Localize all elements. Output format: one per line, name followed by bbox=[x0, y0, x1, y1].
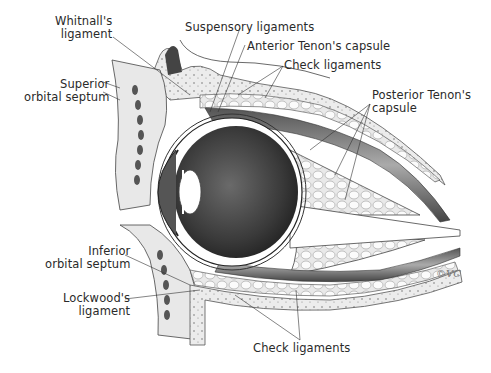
label-suspensory-ligaments: Suspensory ligaments bbox=[185, 21, 314, 34]
label-line: orbital septum bbox=[24, 91, 109, 104]
label-whitnalls-ligament: Whitnall's ligament bbox=[55, 15, 112, 41]
label-line: Anterior Tenon's capsule bbox=[247, 40, 390, 53]
label-line: ligament bbox=[55, 28, 112, 41]
artist-signature: ©VC bbox=[436, 268, 461, 279]
label-check-ligaments-bottom: Check ligaments bbox=[253, 342, 350, 355]
cornea bbox=[158, 150, 176, 236]
label-posterior-tenons-capsule: Posterior Tenon's capsule bbox=[372, 89, 471, 115]
label-line: orbital septum bbox=[45, 258, 130, 271]
superior-orbital-fat bbox=[290, 150, 420, 215]
label-superior-orbital-septum: Superior orbital septum bbox=[24, 78, 109, 104]
label-inferior-orbital-septum: Inferior orbital septum bbox=[45, 245, 130, 271]
label-line: capsule bbox=[372, 102, 471, 115]
label-line: ligament bbox=[63, 305, 130, 318]
label-check-ligaments-top: Check ligaments bbox=[284, 59, 381, 72]
label-line: Check ligaments bbox=[284, 59, 381, 72]
label-anterior-tenons-capsule: Anterior Tenon's capsule bbox=[247, 40, 390, 53]
label-lockwoods-ligament: Lockwood's ligament bbox=[63, 292, 130, 318]
label-line: Suspensory ligaments bbox=[185, 21, 314, 34]
label-line: Check ligaments bbox=[253, 342, 350, 355]
eyeball bbox=[158, 118, 302, 266]
